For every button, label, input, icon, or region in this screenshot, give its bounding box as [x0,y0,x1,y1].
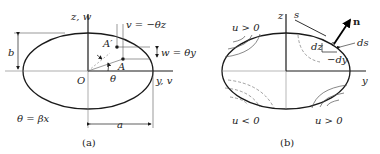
theta-equation: θ = βx [17,113,50,124]
y-axis-label-b: y [361,75,368,86]
y-v-axis-label: y, v [155,75,173,86]
z-axis-label-b: z [277,10,284,21]
n-label: n [353,16,361,27]
caption-a: (a) [82,137,96,148]
dz-label: dz [311,41,323,52]
point-A-prime [115,45,119,49]
w-equation: w = θy [161,47,196,58]
diagram-canvas: z, w y, v O b a A′ A θ v = −θz w = θy θ … [0,0,380,154]
a-label: a [117,119,123,130]
neg-dy-label: −dy [327,54,348,65]
figure-b: z y s n dz ds −dy u > 0 u < 0 u > 0 (b) [222,9,369,148]
contours-bottom-left [225,80,274,108]
b-label: b [8,47,14,58]
s-label: s [294,9,299,20]
A-prime-label: A′ [102,38,113,49]
v-equation: v = −θz [126,19,167,30]
origin-label: O [77,75,85,86]
caption-b: (b) [280,137,294,148]
theta-label: θ [110,73,116,84]
normal-vector-n [334,20,350,44]
z-w-axis-label: z, w [70,11,92,22]
u-negative-bottom-left: u < 0 [232,115,260,126]
A-label: A [117,61,125,72]
figure-a: z, w y, v O b a A′ A θ v = −θz w = θy θ … [5,11,196,148]
u-positive-bottom-right: u > 0 [315,115,343,126]
ds-label: ds [357,37,369,48]
u-positive-top-left: u > 0 [232,22,260,33]
